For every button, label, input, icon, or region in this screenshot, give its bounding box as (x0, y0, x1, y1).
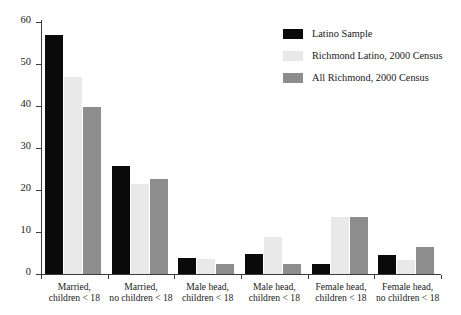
bar[interactable] (416, 247, 434, 274)
x-axis-tick-mark (174, 275, 175, 279)
chart-legend: Latino SampleRichmond Latino, 2000 Censu… (283, 25, 442, 91)
legend-swatch-icon (283, 29, 303, 39)
bar-group (112, 22, 168, 274)
bar[interactable] (245, 254, 263, 274)
bar-group-bars (178, 22, 234, 274)
y-axis-tick-label: 60 (21, 14, 32, 25)
x-axis-tick-mark (308, 275, 309, 279)
bar[interactable] (312, 264, 330, 275)
legend-item[interactable]: Latino Sample (283, 25, 442, 42)
x-axis-category-label-line: no children < 18 (366, 292, 449, 303)
bar[interactable] (378, 255, 396, 274)
bar[interactable] (131, 184, 149, 274)
bar[interactable] (150, 179, 168, 274)
bar[interactable] (83, 107, 101, 274)
x-axis-category-label: Female head,no children < 18 (366, 281, 449, 303)
bar[interactable] (283, 264, 301, 275)
grouped-bar-chart: 0102030405060 Married,children < 18Marri… (0, 0, 461, 315)
legend-swatch-icon (283, 51, 303, 61)
y-axis-tick-label: 50 (21, 56, 32, 67)
bar-group-bars (112, 22, 168, 274)
y-axis-tick-label: 30 (21, 140, 32, 151)
y-axis-tick-label: 20 (21, 182, 32, 193)
x-axis-tick-mark (41, 275, 42, 279)
x-axis-tick-mark (241, 275, 242, 279)
x-axis-category-label-line: Female head, (366, 281, 449, 292)
x-axis-tick-mark (108, 275, 109, 279)
y-axis-tick-label: 40 (21, 98, 32, 109)
bar[interactable] (64, 77, 82, 274)
bar[interactable] (331, 217, 349, 274)
legend-label: Latino Sample (312, 28, 372, 40)
bar-group (45, 22, 101, 274)
bar[interactable] (216, 264, 234, 275)
bar[interactable] (264, 237, 282, 274)
x-axis-tick-mark (374, 275, 375, 279)
bar[interactable] (197, 259, 215, 274)
bar[interactable] (397, 260, 415, 274)
x-axis-tick-mark (441, 275, 442, 279)
bar-group (178, 22, 234, 274)
legend-label: All Richmond, 2000 Census (312, 72, 429, 84)
y-axis-tick-label: 10 (21, 224, 32, 235)
legend-item[interactable]: Richmond Latino, 2000 Census (283, 47, 442, 64)
legend-item[interactable]: All Richmond, 2000 Census (283, 69, 442, 86)
bar[interactable] (178, 258, 196, 274)
bar-group-bars (45, 22, 101, 274)
legend-swatch-icon (283, 73, 303, 83)
bar[interactable] (350, 217, 368, 274)
bar[interactable] (45, 35, 63, 274)
bar[interactable] (112, 166, 130, 274)
legend-label: Richmond Latino, 2000 Census (312, 50, 442, 62)
y-axis-tick-label: 0 (26, 266, 31, 277)
